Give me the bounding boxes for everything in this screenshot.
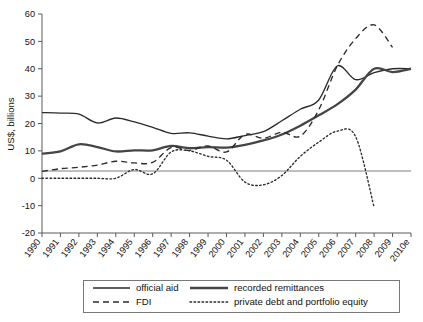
x-tick-marks — [42, 233, 411, 237]
x-tick-label: 2005 — [299, 237, 319, 259]
y-tick-labels: -20-100102030405060 — [22, 9, 35, 238]
x-tick-label: 2007 — [336, 237, 356, 259]
x-tick-label: 1991 — [41, 237, 61, 259]
x-axis: 1990199119921993199419951996199719981999… — [22, 233, 411, 263]
x-tick-labels: 1990199119921993199419951996199719981999… — [22, 237, 411, 263]
x-tick-label: 2006 — [317, 237, 337, 259]
legend-label-private-debt-and-portfolio-equity: private debt and portfolio equity — [234, 296, 368, 307]
x-tick-label: 2003 — [262, 237, 282, 259]
y-tick-label: 60 — [25, 9, 35, 19]
y-axis-title: US$, billions — [5, 97, 16, 151]
x-tick-label: 1998 — [170, 237, 190, 259]
x-tick-label: 1995 — [114, 237, 134, 259]
x-tick-label: 2004 — [280, 237, 300, 259]
y-tick-label: 40 — [25, 64, 35, 74]
x-tick-label: 1992 — [59, 237, 79, 259]
x-tick-label: 1993 — [77, 237, 97, 259]
chart-figure: -20-100102030405060 19901991199219931994… — [0, 0, 423, 322]
x-tick-label: 2001 — [225, 237, 245, 259]
legend-label-recorded-remittances: recorded remittances — [234, 282, 324, 293]
chart-legend: official aidrecorded remittancesFDIpriva… — [84, 281, 400, 313]
legend-label-official-aid: official aid — [136, 282, 179, 293]
y-tick-label: -10 — [22, 201, 35, 211]
data-series-group — [42, 25, 411, 207]
x-tick-label: 1999 — [188, 237, 208, 259]
x-tick-label: 2010e — [388, 237, 412, 263]
y-tick-marks — [38, 14, 42, 233]
series-line-private-debt-and-portfolio-equity — [42, 129, 374, 207]
x-tick-label: 1997 — [151, 237, 171, 259]
line-chart: -20-100102030405060 19901991199219931994… — [0, 0, 423, 322]
y-axis: -20-100102030405060 — [22, 9, 42, 238]
x-tick-label: 2000 — [207, 237, 227, 259]
y-tick-label: 50 — [25, 37, 35, 47]
series-line-fdi — [42, 25, 393, 172]
x-tick-label: 1996 — [133, 237, 153, 259]
x-tick-label: 2008 — [354, 237, 374, 259]
y-tick-label: -20 — [22, 228, 35, 238]
legend-label-fdi: FDI — [136, 296, 151, 307]
y-tick-label: 20 — [25, 119, 35, 129]
y-tick-label: 30 — [25, 91, 35, 101]
y-tick-label: 0 — [30, 174, 35, 184]
series-line-official-aid — [42, 66, 411, 139]
x-tick-label: 2002 — [244, 237, 264, 259]
x-tick-label: 1990 — [22, 237, 42, 259]
y-tick-label: 10 — [25, 146, 35, 156]
series-line-recorded-remittances — [42, 68, 411, 154]
x-tick-label: 1994 — [96, 237, 116, 259]
